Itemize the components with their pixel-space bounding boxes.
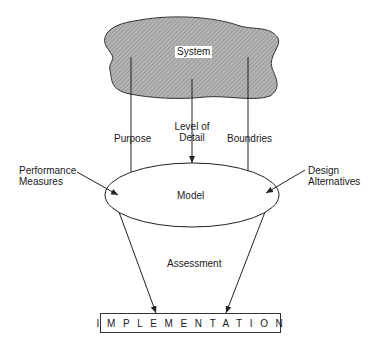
assessment-left-arrow	[119, 212, 156, 313]
model-label: Model	[177, 190, 204, 201]
level-of-detail-line2: Detail	[172, 132, 212, 143]
design-line1: Design	[308, 165, 360, 176]
performance-line1: Performance	[19, 165, 76, 176]
design-line2: Alternatives	[308, 176, 360, 187]
purpose-label: Purpose	[114, 133, 151, 144]
design-alternatives-label: Design Alternatives	[308, 165, 360, 187]
assessment-right-arrow	[226, 212, 265, 313]
performance-line2: Measures	[19, 176, 76, 187]
boundries-label: Boundries	[227, 133, 272, 144]
assessment-label: Assessment	[167, 258, 221, 269]
implementation-label: IMPLEMENTATION	[97, 318, 291, 329]
performance-measures-label: Performance Measures	[19, 165, 76, 187]
system-label: System	[175, 46, 212, 58]
level-of-detail-line1: Level of	[172, 121, 212, 132]
level-of-detail-label: Level of Detail	[172, 121, 212, 143]
implementation-box: IMPLEMENTATION	[100, 313, 281, 333]
